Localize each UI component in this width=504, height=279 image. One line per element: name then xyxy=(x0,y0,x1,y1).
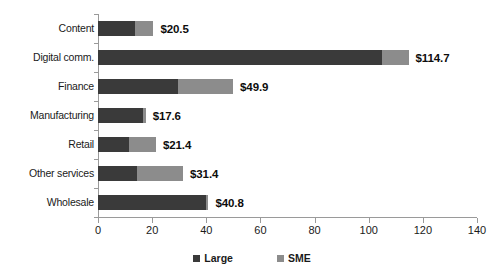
bar-row: $114.7 xyxy=(98,43,449,72)
legend-label: Large xyxy=(204,252,233,264)
value-axis-tick xyxy=(369,218,370,223)
value-axis-tick xyxy=(98,218,99,223)
bar-segment-sme xyxy=(206,195,208,210)
bar-value-label: $17.6 xyxy=(153,110,181,122)
value-axis-tick-label: 140 xyxy=(468,224,486,236)
category-label: Digital comm. xyxy=(2,51,94,63)
category-axis-tick xyxy=(94,101,98,102)
value-axis-tick xyxy=(477,218,478,223)
bar-stack xyxy=(98,108,146,123)
value-axis-tick-label: 20 xyxy=(146,224,158,236)
bar-segment-sme xyxy=(137,166,183,181)
bar-segment-sme xyxy=(135,21,154,36)
value-axis-line xyxy=(98,217,477,218)
bar-segment-large xyxy=(98,79,178,94)
bar-value-label: $31.4 xyxy=(190,168,218,180)
category-axis-tick xyxy=(94,72,98,73)
category-label: Other services xyxy=(2,167,94,179)
plot-area: $20.5$114.7$49.9$17.6$21.4$31.4$40.8 xyxy=(98,14,477,217)
value-axis-tick-label: 100 xyxy=(360,224,378,236)
bar-segment-sme xyxy=(178,79,233,94)
bar-stack xyxy=(98,50,409,65)
category-axis-tick xyxy=(94,130,98,131)
category-axis-labels: ContentDigital comm.FinanceManufacturing… xyxy=(0,14,94,217)
category-axis-tick xyxy=(94,14,98,15)
bar-stack xyxy=(98,79,233,94)
bar-segment-large xyxy=(98,137,129,152)
value-axis-tick xyxy=(206,218,207,223)
bar-stack xyxy=(98,166,183,181)
bar-row: $17.6 xyxy=(98,101,181,130)
category-label: Manufacturing xyxy=(2,109,94,121)
bar-segment-large xyxy=(98,21,135,36)
value-axis-tick-label: 120 xyxy=(414,224,432,236)
category-label: Content xyxy=(2,22,94,34)
bar-value-label: $20.5 xyxy=(160,23,188,35)
value-axis-tick-label: 60 xyxy=(254,224,266,236)
legend-item: SME xyxy=(277,252,311,264)
value-axis-tick-label: 40 xyxy=(200,224,212,236)
bar-stack xyxy=(98,21,153,36)
value-axis-tick-label: 0 xyxy=(95,224,101,236)
value-axis-tick xyxy=(260,218,261,223)
value-axis-tick xyxy=(152,218,153,223)
bar-segment-large xyxy=(98,166,137,181)
value-axis-tick xyxy=(423,218,424,223)
bar-value-label: $114.7 xyxy=(416,52,450,64)
category-axis-tick xyxy=(94,159,98,160)
bar-segment-large xyxy=(98,195,206,210)
legend-label: SME xyxy=(288,252,311,264)
stacked-bar-chart: ContentDigital comm.FinanceManufacturing… xyxy=(0,0,504,279)
chart-legend: LargeSME xyxy=(0,252,504,264)
bar-row: $49.9 xyxy=(98,72,268,101)
bar-value-label: $40.8 xyxy=(215,197,243,209)
bar-segment-large xyxy=(98,108,143,123)
bar-value-label: $49.9 xyxy=(240,81,268,93)
category-label: Finance xyxy=(2,80,94,92)
category-label: Retail xyxy=(2,138,94,150)
category-axis-tick xyxy=(94,188,98,189)
bar-row: $31.4 xyxy=(98,159,218,188)
legend-swatch-icon xyxy=(193,255,200,262)
category-axis-tick xyxy=(94,43,98,44)
bar-row: $20.5 xyxy=(98,14,189,43)
category-label: Wholesale xyxy=(2,196,94,208)
value-axis-tick xyxy=(315,218,316,223)
bar-stack xyxy=(98,137,156,152)
bar-segment-sme xyxy=(382,50,408,65)
legend-item: Large xyxy=(193,252,233,264)
bar-row: $40.8 xyxy=(98,188,244,217)
bar-stack xyxy=(98,195,208,210)
legend-swatch-icon xyxy=(277,255,284,262)
bar-row: $21.4 xyxy=(98,130,191,159)
bar-value-label: $21.4 xyxy=(163,139,191,151)
bar-segment-large xyxy=(98,50,382,65)
bar-segment-sme xyxy=(143,108,146,123)
value-axis-tick-label: 80 xyxy=(308,224,320,236)
bar-segment-sme xyxy=(129,137,156,152)
